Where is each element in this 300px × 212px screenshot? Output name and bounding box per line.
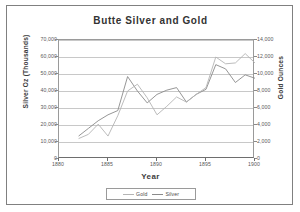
y-axis-left-tick-label: 60,000 xyxy=(11,53,57,59)
y-axis-left-tick-label: 40,000 xyxy=(11,87,57,93)
y-axis-left-tick-label: 30,000 xyxy=(11,104,57,110)
legend-label: Silver xyxy=(165,191,179,197)
y-axis-right-title: Gold Ounces xyxy=(277,33,284,123)
x-axis-tick-label: 1885 xyxy=(87,161,127,167)
y-axis-left-tick-label: 70,000 xyxy=(11,36,57,42)
chart-frame: Butte Silver and Gold 010,00020,00030,00… xyxy=(6,5,293,205)
legend-swatch-gold-icon xyxy=(123,194,134,195)
y-axis-left-title: Silver Oz (Thousands) xyxy=(22,22,29,122)
data-series-lines xyxy=(59,40,255,159)
x-axis-tick-label: 1880 xyxy=(38,161,78,167)
legend-item-silver[interactable]: Silver xyxy=(152,191,179,197)
y-axis-left-tick-label: 50,000 xyxy=(11,70,57,76)
x-axis-tick-label: 1890 xyxy=(136,161,176,167)
y-axis-left-tick-label: 0 xyxy=(11,155,57,161)
series-line-gold xyxy=(79,54,255,139)
chart-legend: GoldSilver xyxy=(106,188,196,200)
legend-label: Gold xyxy=(136,191,147,197)
x-axis-tick-label: 1895 xyxy=(185,161,225,167)
series-line-silver xyxy=(79,65,255,136)
plot-area xyxy=(58,39,254,158)
y-axis-left-tick-label: 20,000 xyxy=(11,121,57,127)
legend-item-gold[interactable]: Gold xyxy=(123,191,147,197)
y-axis-left-tick-label: 10,000 xyxy=(11,138,57,144)
y-axis-left-tick-labels: 010,00020,00030,00040,00050,00060,00070,… xyxy=(7,39,57,158)
legend-swatch-silver-icon xyxy=(152,194,163,195)
chart-title: Butte Silver and Gold xyxy=(7,15,294,26)
x-axis-title: Year xyxy=(7,172,294,181)
x-axis-tick-labels: 18801885189018951900 xyxy=(58,161,254,171)
y-axis-right-tick-label: 0 xyxy=(257,155,297,161)
x-axis-tick-label: 1900 xyxy=(234,161,274,167)
y-axis-right-tick-label: 2,000 xyxy=(257,138,297,144)
